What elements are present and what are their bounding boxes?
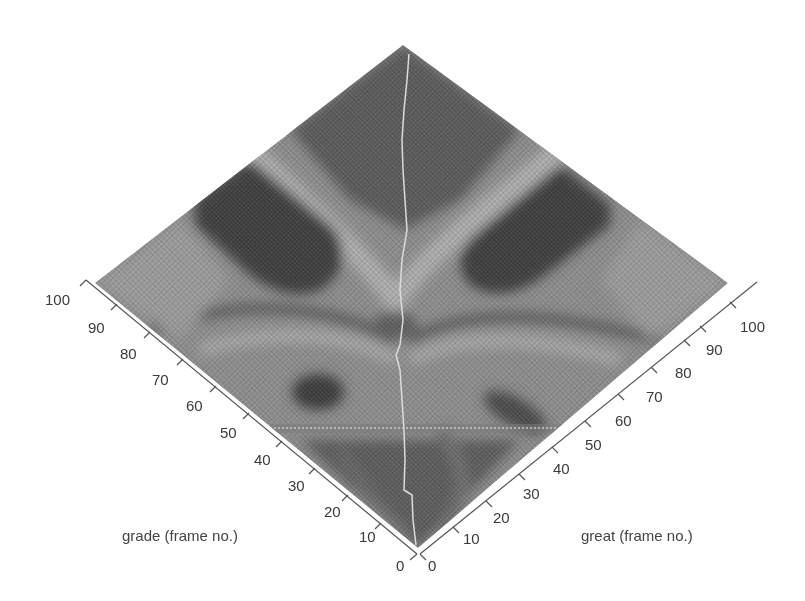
svg-text:60: 60 (186, 397, 203, 414)
surface-plot: 0 10 20 30 40 50 60 70 80 90 100 0 10 20… (0, 0, 805, 601)
svg-text:0: 0 (396, 557, 404, 574)
svg-text:50: 50 (585, 436, 602, 453)
svg-text:100: 100 (45, 291, 70, 308)
svg-text:40: 40 (553, 460, 570, 477)
svg-text:10: 10 (463, 530, 480, 547)
svg-text:100: 100 (740, 318, 765, 335)
svg-text:70: 70 (152, 371, 169, 388)
svg-text:90: 90 (706, 341, 723, 358)
svg-text:10: 10 (359, 528, 376, 545)
svg-text:0: 0 (428, 557, 436, 574)
svg-text:70: 70 (646, 388, 663, 405)
x-axis-title: grade (frame no.) (122, 527, 238, 544)
svg-text:60: 60 (615, 412, 632, 429)
svg-text:20: 20 (324, 503, 341, 520)
y-axis-title: great (frame no.) (581, 527, 693, 544)
svg-text:40: 40 (254, 451, 271, 468)
svg-text:50: 50 (220, 424, 237, 441)
svg-text:20: 20 (493, 509, 510, 526)
surface (95, 45, 728, 548)
svg-text:30: 30 (288, 477, 305, 494)
svg-text:80: 80 (675, 364, 692, 381)
svg-text:80: 80 (120, 345, 137, 362)
svg-text:90: 90 (88, 319, 105, 336)
svg-text:30: 30 (523, 485, 540, 502)
